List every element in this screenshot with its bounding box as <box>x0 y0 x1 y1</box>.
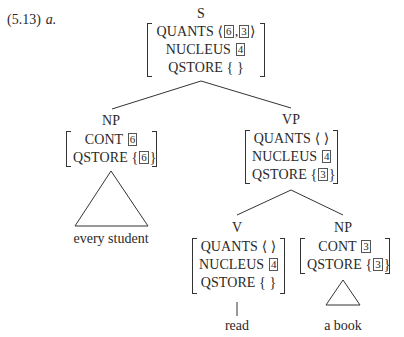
avm-row-nucleus: NUCLEUS 4 <box>154 41 258 59</box>
np-triangle <box>75 171 148 226</box>
branch-vp-v <box>237 190 291 215</box>
avm-row-quants: QUANTS ⟨ ⟩ <box>199 238 278 256</box>
np2-triangle <box>326 280 360 305</box>
avm-s: QUANTS ⟨6,3⟩ NUCLEUS 4 QSTORE { } <box>147 23 265 77</box>
tag-box: 6 <box>139 151 149 164</box>
tag-box: 4 <box>269 258 279 271</box>
avm-vp: QUANTS ⟨ ⟩ NUCLEUS 4 QSTORE {3} <box>245 130 338 184</box>
avm-v: QUANTS ⟨ ⟩ NUCLEUS 4 QSTORE { } <box>192 238 285 294</box>
avm-row-cont: CONT 3 <box>307 238 383 256</box>
branch-s-vp <box>201 81 291 108</box>
tag-box: 6 <box>224 25 234 38</box>
tag-box: 3 <box>239 25 249 38</box>
node-label-np2: NP <box>334 220 352 236</box>
avm-row-qstore: QSTORE {6} <box>73 149 150 167</box>
node-label-np: NP <box>102 113 120 129</box>
avm-row-qstore: QSTORE { } <box>154 59 258 77</box>
avm-np: CONT 6 QSTORE {6} <box>66 131 157 167</box>
tag-box: 4 <box>322 150 332 163</box>
avm-row-quants: QUANTS ⟨6,3⟩ <box>154 23 258 41</box>
branch-s-np <box>112 81 201 109</box>
avm-row-qstore: QSTORE { } <box>199 274 278 292</box>
node-label-s: S <box>197 6 205 22</box>
avm-np2: CONT 3 QSTORE {3} <box>300 238 390 274</box>
tag-box: 3 <box>373 258 383 271</box>
avm-row-nucleus: NUCLEUS 4 <box>252 148 331 166</box>
leaf-read: read <box>225 318 249 334</box>
node-label-vp: VP <box>282 112 300 128</box>
tag-box: 3 <box>318 168 328 181</box>
branch-vp-np <box>291 190 343 215</box>
leaf-a-book: a book <box>324 318 362 334</box>
avm-row-qstore: QSTORE {3} <box>252 166 331 184</box>
avm-row-qstore: QSTORE {3} <box>307 256 383 274</box>
leaf-every-student: every student <box>73 231 148 247</box>
avm-row-cont: CONT 6 <box>73 131 150 149</box>
avm-row-nucleus: NUCLEUS 4 <box>199 256 278 274</box>
tag-box: 6 <box>128 133 138 146</box>
avm-row-quants: QUANTS ⟨ ⟩ <box>252 130 331 148</box>
tag-box: 4 <box>236 43 246 56</box>
node-label-v: V <box>232 220 242 236</box>
tag-box: 3 <box>361 240 371 253</box>
